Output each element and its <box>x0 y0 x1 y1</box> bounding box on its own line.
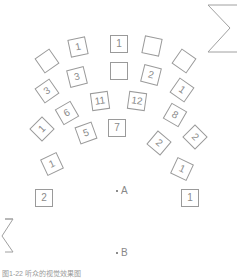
seat-label: 2 <box>41 193 47 203</box>
seating-diagram: 113231111268751221121 AB 图1-22 听众的视觉效果图 <box>0 0 237 278</box>
seat-label: 1 <box>177 163 186 174</box>
seat-label: 8 <box>170 109 180 120</box>
seat-label: 1 <box>187 193 193 203</box>
seat: 11 <box>90 91 110 111</box>
seat-label: 1 <box>36 123 47 134</box>
seat-label: 3 <box>42 85 52 96</box>
seat-label: 7 <box>114 123 120 133</box>
break-mark-bottom-left <box>2 219 13 252</box>
seat: 1 <box>110 35 128 53</box>
seat-label: 2 <box>147 69 155 80</box>
seat-label: 3 <box>73 71 81 82</box>
seat <box>141 35 162 56</box>
seat: 7 <box>108 119 126 137</box>
break-mark-top-right <box>208 5 237 52</box>
point-marker: B <box>116 247 128 258</box>
seat-label: 2 <box>154 137 165 148</box>
figure-caption: 图1-22 听众的视觉效果图 <box>2 268 81 278</box>
seat: 1 <box>67 36 88 57</box>
seat-label: 12 <box>131 95 143 106</box>
seat-label: 5 <box>82 127 91 138</box>
seat <box>110 62 128 80</box>
seat-label: 1 <box>116 39 122 49</box>
point-label: A <box>121 185 128 196</box>
dot-icon <box>116 252 118 254</box>
seat-label: 1 <box>74 42 82 53</box>
seat: 12 <box>127 91 147 111</box>
seat-label: 6 <box>62 107 72 118</box>
dot-icon <box>116 190 118 192</box>
point-marker: A <box>116 185 128 196</box>
seat-label: 2 <box>189 131 200 142</box>
seat-label: 1 <box>177 84 187 95</box>
seat: 2 <box>35 189 53 207</box>
seat-label: 11 <box>94 95 106 106</box>
seat-label: 1 <box>47 158 56 169</box>
seat: 1 <box>181 189 199 207</box>
point-label: B <box>121 247 128 258</box>
